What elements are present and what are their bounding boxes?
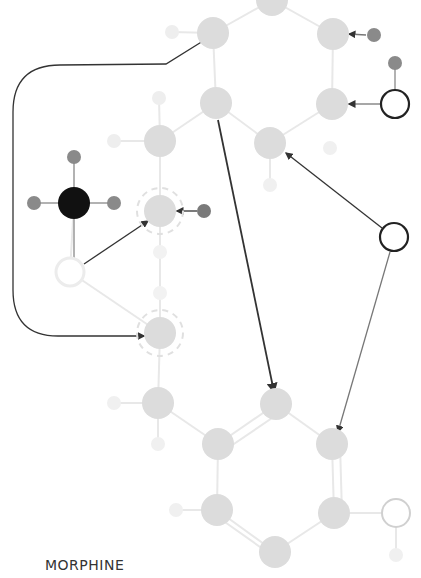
morphine-molecule-diagram [0,0,421,578]
molecule-caption: MORPHINE [45,557,124,573]
black-center-atom [58,187,90,219]
carbon-atom [197,17,229,49]
hydrogen-atom [152,91,166,105]
carbon-atom [316,88,348,120]
carbon-atom [200,87,232,119]
carbon-atom [142,387,174,419]
hydrogen-atom [165,25,179,39]
hydrogen-atom-dark [107,196,121,210]
carbon-atom [259,536,291,568]
hydrogen-atom [323,141,337,155]
carbon-atom [256,0,288,16]
carbon-atom [144,125,176,157]
hydrogen-atom [107,134,121,148]
hydrogen-atom-dark [27,196,41,210]
carbon-atom [144,317,176,349]
hydrogen-atom-dark [197,204,211,218]
carbon-atom [316,428,348,460]
carbon-atom [318,497,350,529]
carbon-atom [260,388,292,420]
carbon-atom [254,127,286,159]
hydrogen-atom [153,245,167,259]
oxygen-ring-atom-light [382,499,410,527]
hydrogen-atom-dark [388,56,402,70]
hydrogen-atom [389,548,403,562]
carbon-atom [201,494,233,526]
hydrogen-atom-dark [367,28,381,42]
hydrogen-atom [107,396,121,410]
hydrogen-atom-dark [67,150,81,164]
carbon-atom [202,428,234,460]
oxygen-atom-white [56,258,84,286]
hydrogen-atom [169,503,183,517]
hydrogen-atom [263,178,277,192]
bond-skeleton [70,0,396,555]
oxygen-ring-atom [381,90,409,118]
hydrogen-atom [151,437,165,451]
hydrogen-atom [153,286,167,300]
carbon-atom [317,18,349,50]
carbon-atom [144,195,176,227]
oxygen-ring-atom [380,223,408,251]
atoms [27,0,410,568]
